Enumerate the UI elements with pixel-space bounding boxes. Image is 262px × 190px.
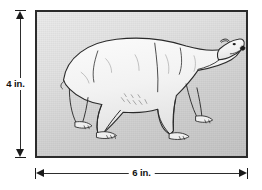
polar-bear-illustration — [37, 12, 246, 156]
height-dimension-label: 4 in. — [0, 78, 31, 90]
picture-frame — [35, 10, 248, 158]
width-dimension-arrow: 6 in. — [35, 167, 248, 180]
width-arrowhead-right — [239, 169, 247, 177]
width-arrowhead-left — [36, 169, 44, 177]
height-tick-bottom — [15, 157, 26, 158]
width-tick-right — [247, 168, 248, 179]
height-arrowhead-up — [16, 11, 24, 19]
width-dimension-label: 6 in. — [128, 166, 155, 180]
height-arrowhead-down — [16, 149, 24, 157]
diagram-root: 4 in. 6 in. — [0, 0, 262, 190]
